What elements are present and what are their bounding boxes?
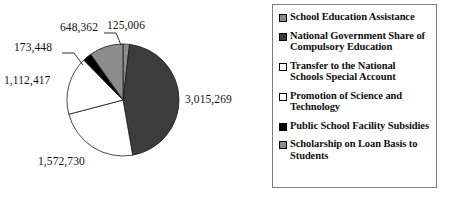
data-label-1112417: 1,112,417 (4, 74, 50, 86)
legend-item-label: Scholarship on Loan Basis to Students (290, 138, 431, 161)
legend-item-transfer-national-schools[interactable]: Transfer to the National Schools Special… (279, 60, 431, 83)
dark-gray-swatch-icon (279, 33, 287, 41)
legend-item-label: National Government Share of Compulsory … (290, 30, 431, 53)
legend-item-public-school-facility-subsidies[interactable]: Public School Facility Subsidies (279, 120, 431, 132)
legend-box: School Education Assistance National Gov… (272, 4, 437, 188)
legend-item-promotion-science-technology[interactable]: Promotion of Science and Technology (279, 90, 431, 113)
pie-slice[interactable] (123, 44, 179, 155)
black-swatch-icon (279, 123, 287, 131)
pie-slice-group (67, 44, 179, 156)
pie-plot-area: 125,006 648,362 173,448 1,112,417 1,572,… (0, 0, 270, 203)
data-label-648362: 648,362 (60, 21, 98, 33)
data-label-125006: 125,006 (107, 19, 145, 31)
data-label-3015269: 3,015,269 (185, 93, 232, 105)
legend-item-label: Transfer to the National Schools Special… (290, 60, 431, 83)
legend-item-label: Public School Facility Subsidies (290, 120, 429, 132)
legend-item-label: School Education Assistance (290, 11, 415, 23)
white-swatch-icon (279, 63, 287, 71)
data-label-173448: 173,448 (14, 41, 52, 53)
gray-swatch-icon (279, 141, 287, 149)
legend-item-scholarship-loan-basis[interactable]: Scholarship on Loan Basis to Students (279, 138, 431, 161)
pie-chart-figure: 125,006 648,362 173,448 1,112,417 1,572,… (0, 0, 451, 203)
legend-item-national-government-share[interactable]: National Government Share of Compulsory … (279, 30, 431, 53)
white-swatch-icon (279, 93, 287, 101)
data-label-1572730: 1,572,730 (38, 155, 85, 167)
gray-swatch-icon (279, 14, 287, 22)
legend-item-school-education-assistance[interactable]: School Education Assistance (279, 11, 431, 23)
legend-item-label: Promotion of Science and Technology (290, 90, 431, 113)
